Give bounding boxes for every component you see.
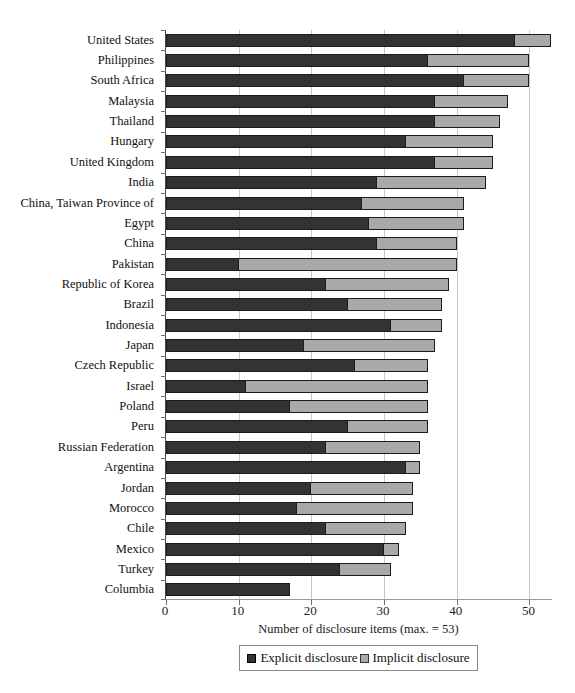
explicit-bar-segment <box>166 197 362 210</box>
category-label: Brazil <box>0 295 160 315</box>
category-label: Mexico <box>0 539 160 559</box>
implicit-bar-segment <box>239 258 457 271</box>
category-label: Columbia <box>0 580 160 600</box>
stacked-bar <box>166 217 464 230</box>
implicit-legend-swatch-icon <box>360 654 369 663</box>
chart-row <box>166 580 552 600</box>
implicit-bar-segment <box>377 237 457 250</box>
y-tick <box>161 580 166 581</box>
implicit-bar-segment <box>515 34 551 47</box>
implicit-bar-segment <box>355 359 428 372</box>
category-label: China, Taiwan Province of <box>0 193 160 213</box>
stacked-bar <box>166 502 413 515</box>
chart-row <box>166 30 552 50</box>
explicit-bar-segment <box>166 237 377 250</box>
category-label: Hungary <box>0 132 160 152</box>
y-tick <box>161 173 166 174</box>
explicit-bar-segment <box>166 400 290 413</box>
chart-row <box>166 559 552 579</box>
y-tick <box>161 111 166 112</box>
chart-row <box>166 50 552 70</box>
stacked-bar <box>166 95 508 108</box>
category-label: India <box>0 173 160 193</box>
implicit-bar-segment <box>391 319 442 332</box>
category-label: Argentina <box>0 458 160 478</box>
implicit-bar-segment <box>246 380 428 393</box>
y-tick <box>161 132 166 133</box>
category-label: United States <box>0 30 160 50</box>
stacked-bar <box>166 319 442 332</box>
explicit-bar-segment <box>166 563 340 576</box>
chart-row <box>166 335 552 355</box>
legend-label-explicit: Explicit disclosure <box>260 650 357 666</box>
chart-row <box>166 173 552 193</box>
category-label: Japan <box>0 335 160 355</box>
chart-row <box>166 376 552 396</box>
chart-row <box>166 254 552 274</box>
chart-row <box>166 111 552 131</box>
y-tick <box>161 193 166 194</box>
explicit-bar-segment <box>166 258 239 271</box>
explicit-bar-segment <box>166 461 406 474</box>
y-tick <box>161 315 166 316</box>
category-label: Poland <box>0 396 160 416</box>
implicit-bar-segment <box>326 441 420 454</box>
y-tick <box>161 559 166 560</box>
explicit-bar-segment <box>166 278 326 291</box>
explicit-bar-segment <box>166 176 377 189</box>
category-label: Czech Republic <box>0 356 160 376</box>
category-label: Pakistan <box>0 254 160 274</box>
implicit-bar-segment <box>435 95 508 108</box>
category-label: Chile <box>0 519 160 539</box>
chart-row <box>166 91 552 111</box>
category-label: Malaysia <box>0 91 160 111</box>
chart-row <box>166 274 552 294</box>
y-tick <box>161 437 166 438</box>
explicit-bar-segment <box>166 34 515 47</box>
stacked-bar <box>166 339 435 352</box>
category-label: Philippines <box>0 50 160 70</box>
y-tick <box>161 417 166 418</box>
stacked-bar <box>166 298 442 311</box>
explicit-bar-segment <box>166 380 246 393</box>
explicit-bar-segment <box>166 115 435 128</box>
category-label: China <box>0 234 160 254</box>
chart-row <box>166 478 552 498</box>
y-tick <box>161 478 166 479</box>
stacked-bar <box>166 176 486 189</box>
plot-area <box>165 30 552 600</box>
chart-row <box>166 417 552 437</box>
stacked-bar <box>166 543 399 556</box>
chart-row <box>166 152 552 172</box>
x-tick-label: 10 <box>221 603 255 619</box>
explicit-bar-segment <box>166 339 304 352</box>
implicit-bar-segment <box>326 278 450 291</box>
implicit-bar-segment <box>348 298 442 311</box>
stacked-bar <box>166 54 529 67</box>
y-tick <box>161 50 166 51</box>
y-tick <box>161 356 166 357</box>
implicit-bar-segment <box>406 135 493 148</box>
chart-row <box>166 295 552 315</box>
explicit-bar-segment <box>166 54 428 67</box>
stacked-bar <box>166 359 428 372</box>
category-label: South Africa <box>0 71 160 91</box>
y-tick <box>161 519 166 520</box>
y-tick <box>161 376 166 377</box>
stacked-bar <box>166 34 551 47</box>
stacked-bar <box>166 197 464 210</box>
category-label: Indonesia <box>0 315 160 335</box>
explicit-legend-swatch-icon <box>247 654 256 663</box>
x-tick-label: 20 <box>293 603 327 619</box>
chart-row <box>166 213 552 233</box>
chart-row <box>166 498 552 518</box>
stacked-bar <box>166 482 413 495</box>
chart-figure: United StatesPhilippinesSouth AfricaMala… <box>0 0 575 693</box>
implicit-bar-segment <box>297 502 413 515</box>
explicit-bar-segment <box>166 441 326 454</box>
explicit-bar-segment <box>166 522 326 535</box>
category-label: Republic of Korea <box>0 274 160 294</box>
implicit-bar-segment <box>311 482 413 495</box>
category-label: Turkey <box>0 559 160 579</box>
explicit-bar-segment <box>166 95 435 108</box>
